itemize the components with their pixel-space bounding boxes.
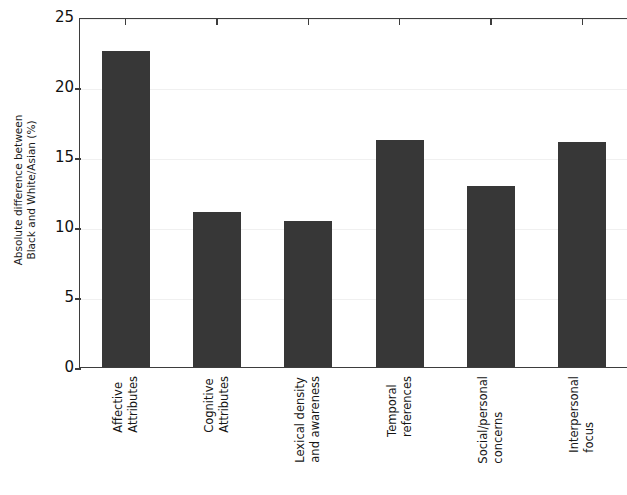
bar-4[interactable] xyxy=(376,140,424,367)
gridline-y-20 xyxy=(80,89,627,90)
x-tick-mark-top-3 xyxy=(308,19,309,25)
x-axis-label-1-line-2: Attributes xyxy=(125,376,140,433)
bar-6[interactable] xyxy=(558,142,606,367)
x-axis-label-6: Interpersonalfocus xyxy=(521,372,627,492)
x-tick-mark-top-1 xyxy=(125,19,126,25)
x-tick-mark-top-6 xyxy=(582,19,583,25)
gridline-y-15 xyxy=(80,159,627,160)
y-axis-title-line-1: Absolute difference between xyxy=(12,115,25,266)
y-tick-label-5: 5 xyxy=(48,290,74,305)
x-axis-category-labels: AffectiveAttributesCognitiveAttributesLe… xyxy=(79,372,627,495)
x-axis-label-5-line-2: concerns xyxy=(490,376,505,464)
y-tick-mark-20 xyxy=(75,88,81,89)
y-tick-label-10: 10 xyxy=(48,220,74,235)
y-tick-mark-15 xyxy=(75,158,81,159)
gridline-y-25 xyxy=(80,19,627,20)
x-axis-label-5-line-1: Social/personal xyxy=(476,376,491,464)
y-tick-mark-0 xyxy=(75,368,81,369)
y-axis-title-line-2: Black and White/Asian (%) xyxy=(25,115,38,266)
x-axis-label-3-line-2: and awareness xyxy=(307,376,322,463)
bar-1[interactable] xyxy=(102,51,150,367)
gridline-y-5 xyxy=(80,299,627,300)
y-tick-label-15: 15 xyxy=(48,150,74,165)
x-axis-label-6-line-1: Interpersonal xyxy=(567,376,582,453)
plot-area xyxy=(79,18,627,368)
bar-3[interactable] xyxy=(284,221,332,367)
gridline-y-10 xyxy=(80,229,627,230)
y-tick-mark-10 xyxy=(75,228,81,229)
y-axis-title: Absolute difference between Black and Wh… xyxy=(2,0,48,380)
bar-5[interactable] xyxy=(467,186,515,367)
x-axis-label-6-line-2: focus xyxy=(581,376,596,453)
x-tick-mark-top-4 xyxy=(399,19,400,25)
x-tick-mark-top-2 xyxy=(216,19,217,25)
x-axis-label-4-line-1: Temporal xyxy=(384,376,399,437)
x-axis-label-2-line-1: Cognitive xyxy=(202,376,217,433)
x-axis-label-2-line-2: Attributes xyxy=(216,376,231,433)
x-axis-label-1-line-1: Affective xyxy=(110,376,125,433)
x-axis-label-3-line-1: Lexical density xyxy=(293,376,308,463)
y-tick-label-25: 25 xyxy=(48,10,74,25)
x-axis-label-4-line-2: references xyxy=(399,376,414,437)
bar-chart-figure: Absolute difference between Black and Wh… xyxy=(0,0,627,495)
y-tick-label-20: 20 xyxy=(48,80,74,95)
y-tick-mark-5 xyxy=(75,298,81,299)
x-tick-mark-top-5 xyxy=(490,19,491,25)
bar-2[interactable] xyxy=(193,212,241,367)
